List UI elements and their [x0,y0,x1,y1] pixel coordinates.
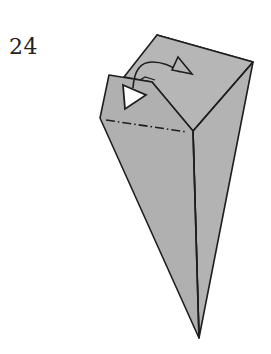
origami-diagram [0,0,271,354]
